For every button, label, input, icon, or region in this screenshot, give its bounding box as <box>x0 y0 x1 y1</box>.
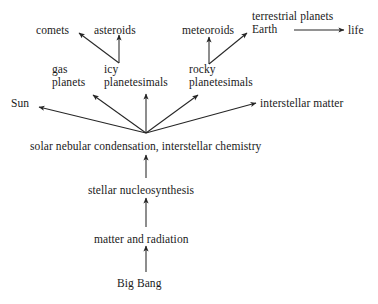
node-terrestrial-planets-earth: terrestrial planetsEarth <box>252 10 333 36</box>
node-label: stellar nucleosynthesis <box>88 184 194 197</box>
node-gas-planets: gasplanets <box>52 63 85 89</box>
node-label: terrestrial planets <box>252 10 333 23</box>
node-interstellar-matter: interstellar matter <box>260 97 343 110</box>
node-stellar-nucleosynthesis: stellar nucleosynthesis <box>88 184 194 197</box>
node-label: meteoroids <box>182 24 234 37</box>
flow-diagram: cometsasteroidsmeteoroidsterrestrial pla… <box>0 0 378 304</box>
node-asteroids: asteroids <box>94 24 136 37</box>
node-label: planetesimals <box>189 76 253 89</box>
node-label: matter and radiation <box>94 233 189 246</box>
node-label: rocky <box>189 63 253 76</box>
node-comets: comets <box>36 24 69 37</box>
edge-rocky-to-earth <box>209 33 247 64</box>
node-meteoroids: meteoroids <box>182 24 234 37</box>
node-sun: Sun <box>11 97 29 110</box>
node-label: planets <box>52 76 85 89</box>
node-label: Big Bang <box>117 277 162 290</box>
node-matter-and-radiation: matter and radiation <box>94 233 189 246</box>
node-life: life <box>348 24 364 37</box>
node-rocky-planetesimals: rockyplanetesimals <box>189 63 253 89</box>
node-label: Sun <box>11 97 29 110</box>
node-big-bang: Big Bang <box>117 277 162 290</box>
node-label: gas <box>52 63 85 76</box>
node-label: solar nebular condensation, interstellar… <box>30 140 261 153</box>
edge-nebular-to-gas-planets <box>93 95 146 133</box>
node-label: planetesimals <box>104 76 168 89</box>
node-label: life <box>348 24 364 37</box>
node-label: Earth <box>252 23 333 36</box>
node-label: asteroids <box>94 24 136 37</box>
node-icy-planetesimals: icyplanetesimals <box>104 63 168 89</box>
node-solar-nebular-condensation: solar nebular condensation, interstellar… <box>30 140 261 153</box>
edge-icy-to-comets <box>79 33 119 63</box>
edge-nebular-to-sun <box>39 107 146 133</box>
node-label: comets <box>36 24 69 37</box>
node-label: icy <box>104 63 168 76</box>
edge-nebular-to-rocky <box>146 95 198 133</box>
node-label: interstellar matter <box>260 97 343 110</box>
edge-nebular-to-interstellar <box>146 103 256 133</box>
